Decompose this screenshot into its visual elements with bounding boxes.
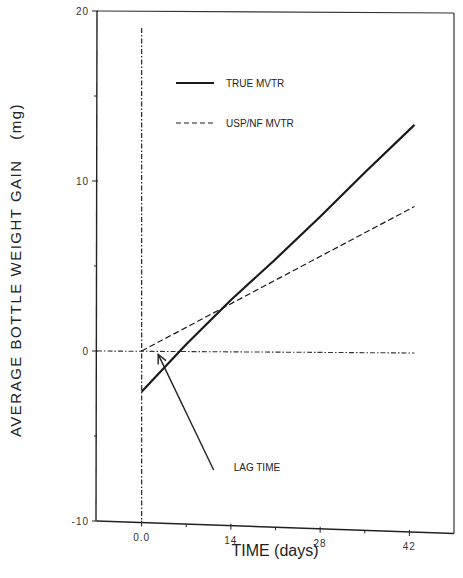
chart: 0.0142842-1001020 AVERAGE BOTTLE WEIGHT … bbox=[0, 0, 463, 578]
plot-border-top bbox=[97, 11, 454, 13]
annotation-label-lag-time: LAG TIME bbox=[234, 462, 281, 473]
reference-lines bbox=[97, 28, 414, 521]
x-tick-label: 42 bbox=[403, 541, 416, 552]
y-tick-label: 0 bbox=[82, 346, 89, 357]
y-tick-label: -10 bbox=[72, 516, 89, 527]
annotation-arrow-shaft bbox=[158, 354, 213, 470]
lag-time-annotation: LAG TIME bbox=[158, 354, 280, 473]
x-tick-label: 0.0 bbox=[133, 532, 150, 543]
reference-line-zero-gain bbox=[97, 351, 414, 353]
y-axis-label-unit: (mg) bbox=[7, 103, 24, 140]
series-line-usp-nf-mvtr bbox=[142, 207, 415, 352]
x-axis-label: TIME (days) bbox=[231, 542, 318, 559]
legend-label-true-mvtr: TRUE MVTR bbox=[226, 78, 284, 89]
legend-label-usp-nf-mvtr: USP/NF MVTR bbox=[226, 118, 294, 129]
axis-ticks bbox=[92, 11, 409, 536]
y-tick-label: 10 bbox=[76, 176, 89, 187]
y-axis-label-main: AVERAGE BOTTLE WEIGHT GAIN bbox=[7, 159, 24, 437]
y-tick-label: 20 bbox=[76, 6, 89, 17]
legend: TRUE MVTR USP/NF MVTR bbox=[176, 78, 294, 129]
plot-frame bbox=[96, 11, 454, 533]
y-axis-label: AVERAGE BOTTLE WEIGHT GAIN (mg) bbox=[7, 103, 24, 437]
